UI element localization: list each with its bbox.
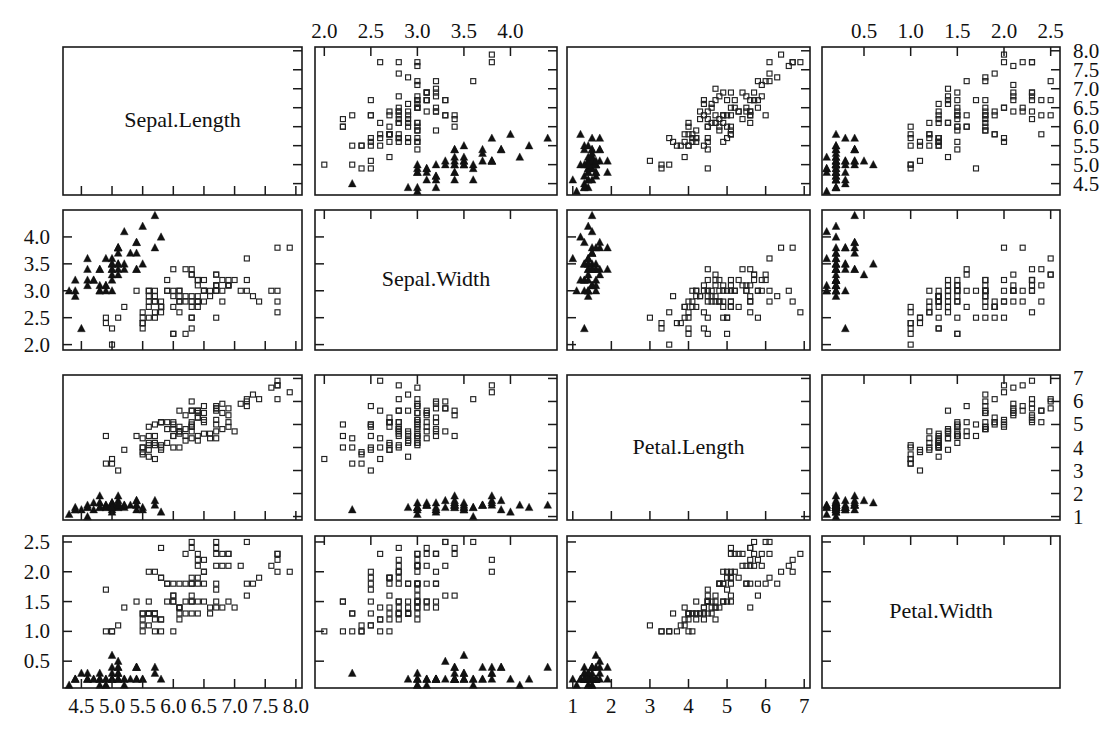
data-point-setosa: [451, 492, 459, 499]
data-point-setosa: [488, 157, 496, 164]
data-point-setosa: [507, 508, 515, 515]
data-point-versicolor-virginica: [396, 397, 401, 402]
data-point-versicolor-virginica: [214, 288, 219, 293]
data-point-versicolor-virginica: [974, 315, 979, 320]
data-point-versicolor-virginica: [177, 288, 182, 293]
data-point-versicolor-virginica: [340, 629, 345, 634]
data-point-versicolor-virginica: [183, 331, 188, 336]
data-point-versicolor-virginica: [1011, 299, 1016, 304]
data-point-versicolor-virginica: [775, 75, 780, 80]
data-point-versicolor-virginica: [368, 113, 373, 118]
data-point-versicolor-virginica: [434, 551, 439, 556]
data-point-versicolor-virginica: [964, 304, 969, 309]
data-point-versicolor-virginica: [387, 575, 392, 580]
data-point-versicolor-virginica: [201, 569, 206, 574]
data-point-versicolor-virginica: [110, 326, 115, 331]
data-point-setosa: [84, 265, 92, 272]
data-point-versicolor-virginica: [946, 288, 951, 293]
data-point-versicolor-virginica: [244, 593, 249, 598]
y-tick-label: 2.0: [24, 560, 50, 584]
data-point-versicolor-virginica: [368, 587, 373, 592]
data-point-versicolor-virginica: [275, 288, 280, 293]
data-point-versicolor-virginica: [214, 581, 219, 586]
data-point-versicolor-virginica: [964, 113, 969, 118]
data-point-versicolor-virginica: [728, 299, 733, 304]
data-point-versicolor-virginica: [159, 575, 164, 580]
data-point-versicolor-virginica: [340, 117, 345, 122]
data-point-versicolor-virginica: [201, 278, 206, 283]
data-point-versicolor-virginica: [767, 60, 772, 65]
data-point-setosa: [580, 324, 588, 331]
data-point-versicolor-virginica: [682, 304, 687, 309]
data-point-versicolor-virginica: [443, 113, 448, 118]
panel-sepal-length-vs-petal-width: 0.51.01.52.02.54.55.05.56.06.57.07.58.0: [822, 19, 1099, 196]
data-point-versicolor-virginica: [220, 605, 225, 610]
data-point-versicolor-virginica: [983, 278, 988, 283]
data-point-versicolor-virginica: [189, 315, 194, 320]
data-point-setosa: [525, 142, 533, 149]
data-point-versicolor-virginica: [946, 86, 951, 91]
data-point-versicolor-virginica: [171, 294, 176, 299]
data-point-versicolor-virginica: [955, 299, 960, 304]
data-point-versicolor-virginica: [1039, 420, 1044, 425]
data-point-setosa: [832, 233, 840, 240]
data-point-versicolor-virginica: [195, 278, 200, 283]
data-point-setosa: [77, 669, 85, 676]
data-point-versicolor-virginica: [177, 408, 182, 413]
data-point-versicolor-virginica: [955, 299, 960, 304]
data-point-versicolor-virginica: [767, 575, 772, 580]
data-point-versicolor-virginica: [748, 299, 753, 304]
data-point-setosa: [133, 238, 141, 245]
data-point-setosa: [96, 492, 104, 499]
data-point-versicolor-virginica: [955, 294, 960, 299]
data-point-versicolor-virginica: [434, 569, 439, 574]
data-point-versicolor-virginica: [244, 288, 249, 293]
data-point-versicolor-virginica: [779, 569, 784, 574]
x-tick-label: 5: [722, 694, 733, 718]
data-point-versicolor-virginica: [705, 331, 710, 336]
data-point-versicolor-virginica: [955, 283, 960, 288]
data-point-versicolor-virginica: [387, 581, 392, 586]
data-point-versicolor-virginica: [415, 551, 420, 556]
data-point-versicolor-virginica: [927, 299, 932, 304]
data-point-versicolor-virginica: [728, 299, 733, 304]
data-point-versicolor-virginica: [165, 420, 170, 425]
data-point-versicolor-virginica: [244, 539, 249, 544]
y-tick-label: 3: [1073, 459, 1084, 483]
data-point-versicolor-virginica: [713, 283, 718, 288]
data-point-versicolor-virginica: [350, 461, 355, 466]
data-point-setosa: [544, 134, 552, 141]
data-point-versicolor-virginica: [946, 299, 951, 304]
data-point-versicolor-virginica: [340, 445, 345, 450]
data-point-versicolor-virginica: [471, 539, 476, 544]
data-point-versicolor-virginica: [183, 427, 188, 432]
data-point-versicolor-virginica: [171, 331, 176, 336]
data-point-versicolor-virginica: [489, 383, 494, 388]
data-point-versicolor-virginica: [736, 278, 741, 283]
x-tick-label: 6.5: [191, 694, 217, 718]
data-point-versicolor-virginica: [171, 445, 176, 450]
x-tick-label: 7.0: [221, 694, 247, 718]
data-point-versicolor-virginica: [159, 304, 164, 309]
data-point-versicolor-virginica: [748, 267, 753, 272]
data-point-versicolor-virginica: [140, 321, 145, 326]
data-point-versicolor-virginica: [387, 593, 392, 598]
data-point-versicolor-virginica: [790, 569, 795, 574]
x-tick-label: 6: [760, 694, 771, 718]
data-point-setosa: [423, 176, 431, 183]
data-point-versicolor-virginica: [434, 79, 439, 84]
data-point-versicolor-virginica: [974, 433, 979, 438]
data-point-versicolor-virginica: [244, 581, 249, 586]
data-point-versicolor-virginica: [396, 599, 401, 604]
data-point-versicolor-virginica: [140, 315, 145, 320]
data-point-versicolor-virginica: [964, 124, 969, 129]
data-point-versicolor-virginica: [159, 629, 164, 634]
data-point-setosa: [139, 222, 147, 229]
data-point-versicolor-virginica: [359, 166, 364, 171]
data-point-versicolor-virginica: [705, 315, 710, 320]
data-point-versicolor-virginica: [1011, 109, 1016, 114]
data-point-setosa: [497, 145, 505, 152]
data-point-versicolor-virginica: [359, 143, 364, 148]
data-point-versicolor-virginica: [195, 611, 200, 616]
data-point-setosa: [96, 669, 104, 676]
